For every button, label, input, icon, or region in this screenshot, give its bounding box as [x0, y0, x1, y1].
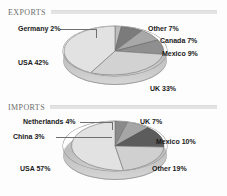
imports-chart: Netherlands 4% China 3% UK 7% Mexico 10%… — [0, 112, 227, 192]
imports-netherlands-leader-v — [112, 122, 113, 130]
exports-label-germany: Germany 2% — [18, 24, 60, 33]
exports-label-mexico: Mexico 9% — [162, 49, 198, 58]
exports-germany-leader-v — [96, 29, 97, 38]
imports-label-china: China 3% — [13, 132, 45, 141]
exports-pie-svg — [63, 26, 167, 76]
imports-label-other: Other 19% — [152, 164, 187, 173]
imports-label-mexico: Mexico 10% — [156, 137, 196, 146]
imports-label-usa: USA 57% — [20, 164, 50, 173]
imports-label-uk: UK 7% — [140, 117, 162, 126]
imports-header-rule — [50, 105, 217, 109]
exports-label-canada: Canada 7% — [160, 36, 197, 45]
document-page: EXPORTS — [0, 0, 227, 196]
exports-label-usa: USA 42% — [18, 58, 48, 67]
imports-pie-graphic — [63, 121, 167, 183]
exports-section-header: EXPORTS — [8, 7, 217, 17]
exports-title: EXPORTS — [8, 8, 51, 17]
exports-label-other: Other 7% — [148, 24, 179, 33]
exports-header-rule — [51, 10, 217, 14]
exports-chart: Germany 2% Other 7% Canada 7% Mexico 9% … — [0, 18, 227, 98]
exports-germany-leader-h — [60, 29, 96, 30]
exports-label-uk: UK 33% — [150, 84, 176, 93]
imports-netherlands-leader-h — [80, 122, 112, 123]
imports-title: IMPORTS — [8, 103, 50, 112]
exports-pie-graphic — [63, 26, 167, 88]
imports-section-header: IMPORTS — [8, 102, 217, 112]
imports-china-leader-h — [56, 137, 112, 138]
imports-label-netherlands: Netherlands 4% — [23, 117, 76, 126]
exports-pie-top — [63, 26, 167, 76]
